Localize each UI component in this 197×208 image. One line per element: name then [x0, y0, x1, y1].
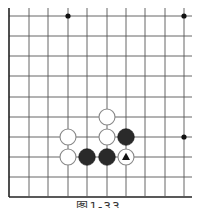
- white-stone: [99, 129, 115, 145]
- white-stone: [60, 129, 76, 145]
- figure-caption: 图1-33: [0, 200, 197, 208]
- star-point-icon: [181, 13, 186, 18]
- white-stone: [99, 109, 115, 125]
- white-stone: [60, 149, 76, 165]
- black-stone: [99, 149, 116, 166]
- black-stone: [79, 149, 96, 166]
- black-stone: [118, 129, 135, 146]
- white-stone-marked: [118, 149, 134, 165]
- star-point-icon: [181, 134, 186, 139]
- star-point-icon: [65, 13, 70, 18]
- go-board: [0, 0, 197, 208]
- board-grid: [9, 8, 192, 197]
